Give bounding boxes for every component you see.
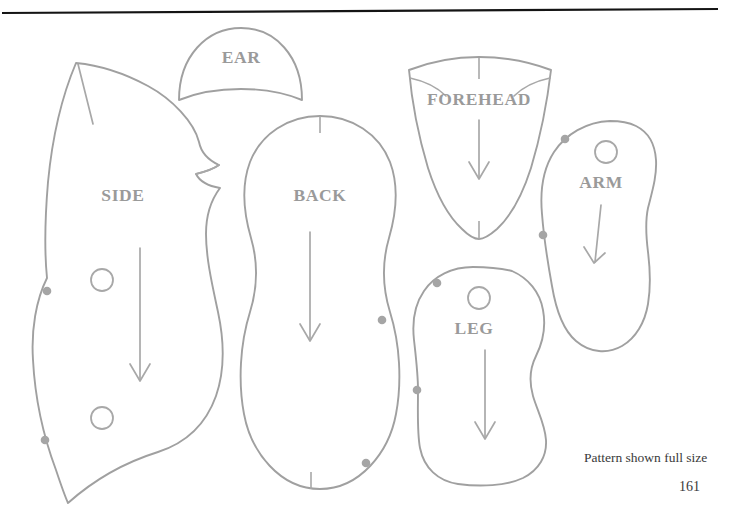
arm-match-dot-upper <box>561 135 570 144</box>
side-grain-arrow <box>130 248 150 381</box>
side-hole-upper <box>91 269 113 291</box>
arm-label: ARM <box>579 172 623 192</box>
pattern-piece-side[interactable]: SIDE <box>33 63 223 503</box>
forehead-label: FOREHEAD <box>427 89 531 109</box>
pattern-page: SIDE EAR BACK <box>0 0 739 514</box>
side-hole-lower <box>91 407 113 429</box>
leg-label: LEG <box>455 318 494 338</box>
pattern-piece-back[interactable]: BACK <box>241 116 400 489</box>
arm-outline <box>541 121 656 351</box>
arm-grain-arrow <box>584 205 605 263</box>
side-match-dot-upper <box>43 287 52 296</box>
ear-label: EAR <box>222 47 261 67</box>
back-grain-arrow <box>300 232 320 341</box>
back-match-dot-lower <box>362 459 371 468</box>
leg-match-dot-upper <box>433 279 442 288</box>
side-label: SIDE <box>101 185 144 205</box>
pattern-piece-leg[interactable]: LEG <box>413 267 546 486</box>
leg-hole <box>468 287 490 309</box>
pattern-size-caption: Pattern shown full size <box>584 450 707 466</box>
pattern-piece-forehead[interactable]: FOREHEAD <box>409 57 551 239</box>
leg-outline <box>413 267 546 486</box>
pattern-piece-arm[interactable]: ARM <box>539 121 656 351</box>
pattern-sheet-svg: SIDE EAR BACK <box>0 0 739 514</box>
arm-match-dot-lower <box>539 231 548 240</box>
arm-hole <box>595 141 617 163</box>
pattern-piece-ear[interactable]: EAR <box>179 28 302 100</box>
side-muzzle-line <box>196 165 219 174</box>
side-match-dot-lower <box>41 436 50 445</box>
back-label: BACK <box>294 185 347 205</box>
side-ear-dart <box>78 64 93 124</box>
back-outline <box>241 116 400 489</box>
forehead-grain-arrow <box>469 120 489 179</box>
leg-grain-arrow <box>475 350 495 439</box>
leg-match-dot-lower <box>413 386 422 395</box>
page-number: 161 <box>679 479 700 495</box>
back-match-dot-upper <box>378 316 387 325</box>
top-divider-rule <box>2 9 718 13</box>
side-outline <box>33 63 223 503</box>
